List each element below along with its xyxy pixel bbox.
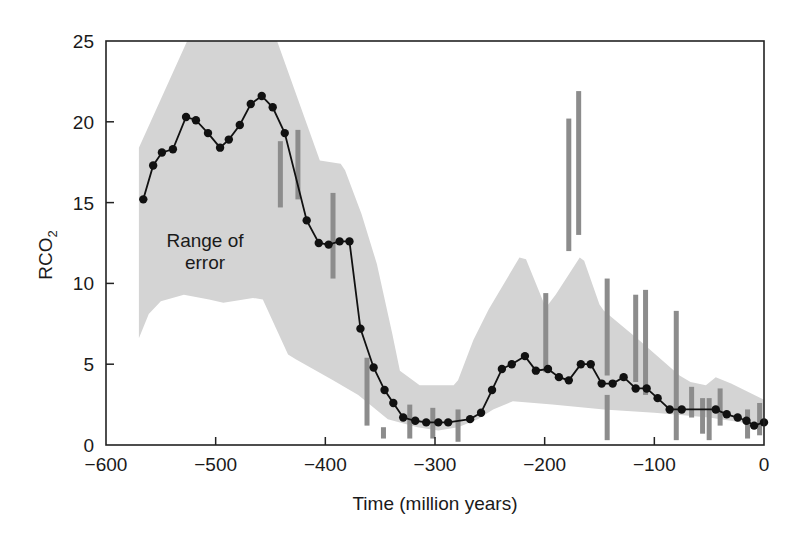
data-point-marker [389, 399, 397, 407]
proxy-error-bar [707, 398, 712, 440]
y-tick-label: 10 [73, 273, 94, 294]
data-point-marker [619, 373, 627, 381]
data-point-marker [508, 360, 516, 368]
proxy-error-bar [456, 409, 461, 441]
data-point-marker [742, 417, 750, 425]
proxy-error-bar [689, 387, 694, 418]
data-point-marker [498, 365, 506, 373]
data-point-marker [466, 415, 474, 423]
data-point-marker [225, 135, 233, 143]
y-axis-title-subscript: 2 [45, 230, 60, 237]
data-point-marker [324, 240, 332, 248]
data-point-marker [587, 360, 595, 368]
y-axis-title-main: RCO [35, 238, 56, 280]
data-point-marker [369, 363, 377, 371]
proxy-error-bar [381, 427, 386, 438]
x-tick-label: −300 [414, 454, 457, 475]
x-tick-label: −200 [523, 454, 566, 475]
proxy-error-bar [633, 295, 638, 382]
x-tick-label: −100 [633, 454, 676, 475]
x-tick-label: 0 [759, 454, 770, 475]
data-point-marker [544, 365, 552, 373]
data-point-marker [444, 418, 452, 426]
data-point-marker [555, 373, 563, 381]
y-axis-title: RCO2 [35, 230, 60, 279]
data-point-marker [268, 103, 276, 111]
y-tick-label: 25 [73, 31, 94, 52]
data-point-marker [750, 421, 758, 429]
x-axis-ticks: −600−500−400−300−200−1000 [85, 437, 770, 475]
data-point-marker [712, 405, 720, 413]
proxy-error-bar [365, 358, 370, 426]
proxy-error-bar [576, 91, 581, 235]
data-point-marker [315, 239, 323, 247]
y-tick-label: 5 [83, 354, 94, 375]
data-point-marker [302, 216, 310, 224]
data-point-marker [678, 405, 686, 413]
data-point-marker [597, 379, 605, 387]
proxy-error-bar [278, 141, 283, 207]
data-point-marker [247, 100, 255, 108]
proxy-error-bar [566, 119, 571, 252]
data-point-marker [532, 366, 540, 374]
data-point-marker [411, 417, 419, 425]
data-point-marker [345, 237, 353, 245]
range-of-error-label-line2: error [185, 252, 226, 273]
proxy-error-bar [700, 398, 705, 434]
x-tick-label: −600 [85, 454, 128, 475]
data-point-marker [521, 352, 529, 360]
data-point-marker [434, 418, 442, 426]
proxy-error-bar [543, 293, 548, 372]
data-point-marker [723, 410, 731, 418]
data-point-marker [169, 145, 177, 153]
data-point-marker [477, 408, 485, 416]
y-tick-label: 15 [73, 193, 94, 214]
x-axis-title: Time (million years) [352, 493, 517, 514]
data-point-marker [665, 405, 673, 413]
data-point-marker [236, 121, 244, 129]
data-point-marker [653, 394, 661, 402]
proxy-error-bar [674, 311, 679, 440]
data-point-marker [422, 418, 430, 426]
x-tick-label: −400 [304, 454, 347, 475]
data-point-marker [281, 129, 289, 137]
data-point-marker [733, 413, 741, 421]
y-tick-label: 0 [83, 435, 94, 456]
data-point-marker [608, 379, 616, 387]
range-of-error-label-line1: Range of [166, 230, 244, 251]
data-point-marker [258, 92, 266, 100]
data-point-marker [565, 376, 573, 384]
data-point-marker [631, 384, 639, 392]
y-axis-ticks: 0510152025 [73, 31, 114, 456]
data-point-marker [335, 237, 343, 245]
data-point-marker [399, 413, 407, 421]
data-point-marker [204, 129, 212, 137]
data-point-marker [149, 161, 157, 169]
proxy-error-bar [331, 193, 336, 279]
proxy-error-bar [605, 395, 610, 440]
data-point-marker [380, 386, 388, 394]
data-point-marker [192, 116, 200, 124]
data-point-marker [488, 386, 496, 394]
proxy-error-bar [643, 290, 648, 395]
proxy-error-bar [605, 279, 610, 376]
data-point-marker [182, 113, 190, 121]
data-point-marker [158, 148, 166, 156]
data-point-marker [356, 324, 364, 332]
rco2-chart: −600−500−400−300−200−1000 0510152025 Ran… [0, 0, 793, 535]
data-point-marker [642, 384, 650, 392]
data-point-marker [216, 143, 224, 151]
data-point-marker [139, 195, 147, 203]
x-tick-label: −500 [194, 454, 237, 475]
y-tick-label: 20 [73, 112, 94, 133]
data-point-marker [577, 360, 585, 368]
